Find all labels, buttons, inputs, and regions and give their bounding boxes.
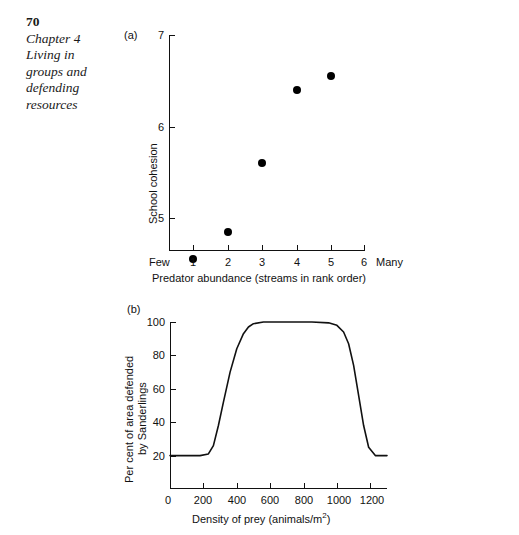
figure-b-curve [170, 322, 387, 489]
figure-b-x-label-200: 200 [194, 494, 212, 506]
figure-b-x-label-1200: 1200 [360, 494, 384, 506]
figure-b-y-label-80: 80 [137, 349, 165, 361]
figure-b-line: (b) Per cent of area defended by Sanderl… [0, 0, 519, 535]
figure-b-y-label-40: 40 [137, 416, 165, 428]
figure-b-plot-area [170, 322, 387, 489]
figure-b-x-axis-title-tail: ) [327, 513, 331, 525]
figure-b-y-axis-title-line1: Per cent of area defended [123, 356, 135, 483]
figure-b-x-label-400: 400 [228, 494, 246, 506]
figure-b-x-axis-title: Density of prey (animals/m2) [192, 511, 330, 525]
figure-b-x-label-1000: 1000 [327, 494, 351, 506]
figure-b-y-label-60: 60 [137, 383, 165, 395]
figure-b-x-label-600: 600 [261, 494, 279, 506]
figure-b-x-axis-title-base: Density of prey (animals/m [192, 513, 322, 525]
figure-b-x-label-800: 800 [295, 494, 313, 506]
figure-b-x-label-0: 0 [165, 494, 171, 506]
figure-b-y-label-100: 100 [137, 316, 165, 328]
panel-label-b: (b) [127, 303, 140, 315]
figure-b-y-label-20: 20 [137, 450, 165, 462]
